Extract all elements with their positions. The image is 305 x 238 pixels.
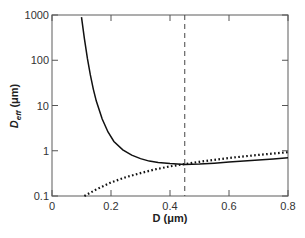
- y-axis: 0.11101001000: [25, 9, 288, 202]
- y-tick-label: 1: [43, 145, 49, 157]
- y-axis-label-main: D: [8, 120, 20, 128]
- y-tick-label: 0.1: [34, 190, 49, 202]
- x-tick-label: 0.8: [280, 200, 295, 212]
- series-dotted-line: [84, 152, 288, 196]
- plot-border: [52, 15, 288, 196]
- y-tick-label: 10: [37, 100, 49, 112]
- y-axis-label: Deff (μm): [8, 83, 23, 128]
- x-tick-label: 0: [49, 200, 55, 212]
- x-tick-label: 0.2: [103, 200, 118, 212]
- x-tick-label: 0.6: [221, 200, 236, 212]
- y-tick-label: 100: [31, 54, 49, 66]
- y-tick-label: 1000: [25, 9, 49, 21]
- plot-frame: [52, 15, 288, 196]
- x-tick-label: 0.4: [162, 200, 177, 212]
- chart: 00.20.40.60.8 0.11101001000 D (μm) Deff …: [0, 0, 305, 238]
- x-axis-label: D (μm): [153, 212, 188, 224]
- y-axis-label-units: (μm): [8, 83, 20, 110]
